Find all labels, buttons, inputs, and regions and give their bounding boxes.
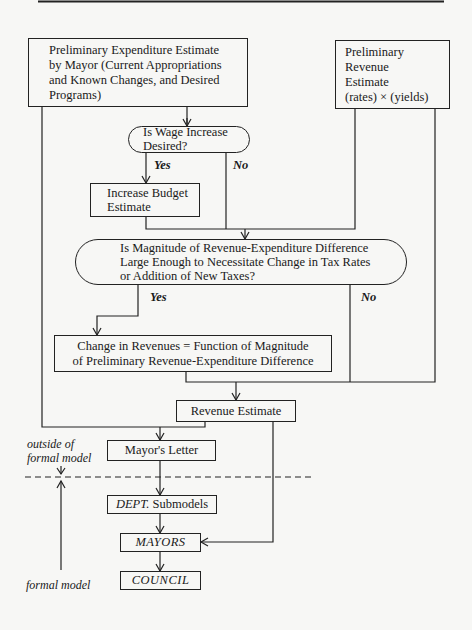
- council-label: COUNCIL: [121, 573, 200, 588]
- outside-formal-model-line-1: outside of: [27, 437, 74, 451]
- dept-submodels-label: DEPT. Submodels: [108, 497, 216, 512]
- expenditure-line-2: by Mayor (Current Appropriations: [49, 58, 222, 73]
- revenue-prelim-line-2: Revenue: [345, 60, 389, 75]
- revenue-prelim-line-4: (rates) × (yields): [345, 90, 428, 105]
- increase-budget-line-2: Estimate: [107, 200, 151, 215]
- revenue-prelim-line-3: Estimate: [345, 75, 389, 90]
- increase-budget-line-1: Increase Budget: [107, 186, 188, 201]
- expenditure-line-1: Preliminary Expenditure Estimate: [49, 43, 219, 58]
- dept-submodels-box: DEPT. Submodels: [107, 495, 217, 514]
- mayors-box: MAYORS: [120, 533, 201, 552]
- wage-decision-line-2: Desired?: [143, 139, 187, 154]
- wage-decision-line-1: Is Wage Increase: [143, 125, 228, 140]
- magnitude-line-3: or Addition of New Taxes?: [120, 269, 255, 284]
- expenditure-line-4: Programs): [49, 88, 101, 103]
- outside-formal-model-line-2: formal model: [27, 451, 91, 465]
- magnitude-yes-label: Yes: [150, 290, 167, 305]
- preliminary-revenue-box: Preliminary Revenue Estimate (rates) × (…: [335, 40, 450, 109]
- revenue-estimate-box: Revenue Estimate: [176, 400, 296, 422]
- mayors-letter-label: Mayor's Letter: [108, 443, 215, 458]
- mayors-label: MAYORS: [121, 535, 200, 550]
- magnitude-no-label: No: [361, 290, 376, 305]
- increase-budget-box: Increase Budget Estimate: [90, 183, 200, 217]
- magnitude-line-1: Is Magnitude of Revenue-Expenditure Diff…: [120, 241, 368, 256]
- dept-label-rest: Submodels: [149, 497, 208, 511]
- revenue-estimate-label: Revenue Estimate: [177, 404, 295, 419]
- magnitude-line-2: Large Enough to Necessitate Change in Ta…: [120, 255, 370, 270]
- revenue-prelim-line-1: Preliminary: [345, 45, 404, 60]
- expenditure-estimate-box: Preliminary Expenditure Estimate by Mayo…: [28, 38, 248, 107]
- mayors-letter-box: Mayor's Letter: [107, 440, 216, 461]
- change-in-revenues-box: Change in Revenues = Function of Magnitu…: [54, 335, 332, 372]
- wage-no-label: No: [233, 158, 248, 173]
- wage-increase-decision: Is Wage Increase Desired?: [128, 126, 250, 153]
- wage-yes-label: Yes: [154, 158, 171, 173]
- formal-model-label: formal model: [26, 578, 90, 592]
- change-revenues-line-2: of Preliminary Revenue-Expenditure Diffe…: [55, 354, 331, 369]
- dept-label-italic: DEPT.: [116, 497, 149, 511]
- change-revenues-line-1: Change in Revenues = Function of Magnitu…: [55, 339, 331, 354]
- magnitude-decision: Is Magnitude of Revenue-Expenditure Diff…: [75, 239, 407, 285]
- expenditure-line-3: and Known Changes, and Desired: [49, 73, 219, 88]
- council-box: COUNCIL: [120, 571, 201, 590]
